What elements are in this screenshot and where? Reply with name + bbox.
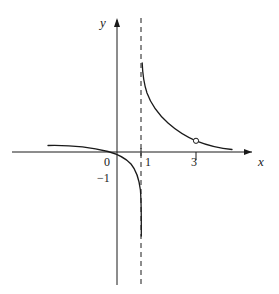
- origin-label: 0: [104, 156, 110, 168]
- y-tick-label-negative-one: −1: [97, 172, 110, 184]
- x-tick-label-3: 3: [191, 156, 197, 168]
- graph-figure: y x 0 1 3 −1: [0, 0, 279, 294]
- x-axis-arrow-icon: [244, 149, 252, 155]
- y-axis-arrow-icon: [114, 18, 120, 27]
- plot-canvas: [0, 0, 279, 294]
- curve-right-branch: [142, 63, 232, 150]
- open-circle-marker: [193, 138, 198, 143]
- x-axis-label: x: [258, 155, 264, 168]
- y-axis-label: y: [100, 16, 106, 29]
- x-axis: [12, 149, 252, 155]
- curve-left-branch: [48, 145, 141, 236]
- x-tick-label-1: 1: [145, 156, 151, 168]
